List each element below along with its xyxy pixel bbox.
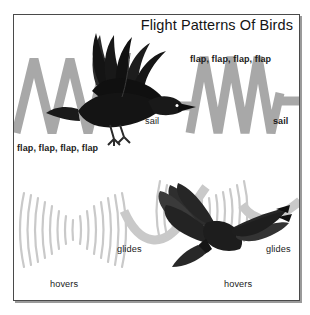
label-hovers-left: hovers (50, 279, 78, 289)
hawk-glides-curve-left (124, 187, 206, 240)
label-sail-right: sail (273, 116, 288, 126)
crow-flap-zigzag-right (190, 57, 280, 133)
label-glides-right: glides (266, 244, 291, 254)
label-glides-left: glides (117, 244, 142, 254)
label-flap-left: flap, flap, flap, flap (17, 143, 98, 153)
hawk-hovers-right (157, 181, 248, 241)
label-flap-right: flap, flap, flap, flap (190, 54, 271, 64)
hawk-trace (20, 181, 300, 267)
flight-patterns-figure: Flight Patterns Of Birds (0, 0, 310, 315)
diagram-panel: Flight Patterns Of Birds (13, 14, 300, 301)
hawk-hovers-left (20, 193, 126, 267)
hawk-bird-illustration (158, 183, 292, 267)
label-hovers-right: hovers (224, 279, 252, 289)
label-sail-middle: sail (145, 116, 159, 126)
page-title: Flight Patterns Of Birds (141, 17, 293, 33)
hawk-glides-curve-right (242, 201, 300, 219)
crow-flap-zigzag-left (16, 59, 117, 133)
crow-bird-illustration (46, 33, 196, 146)
